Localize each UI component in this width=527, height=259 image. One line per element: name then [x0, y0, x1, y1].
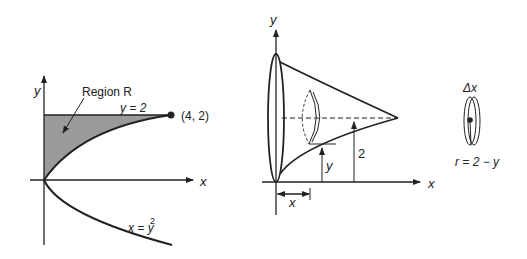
y-axis-label: y — [269, 12, 278, 27]
diagram-canvas: y x Region R y = 2 (4, 2) x = y 2 y x 2 … — [0, 0, 527, 259]
x-dim-label: x — [288, 195, 296, 210]
region-label: Region R — [82, 85, 132, 99]
horn-upper — [280, 62, 398, 118]
line-label: y = 2 — [119, 101, 147, 115]
left-figure: y x Region R y = 2 (4, 2) x = y 2 — [30, 76, 209, 245]
region-r-fill — [44, 115, 171, 180]
curve-exponent: 2 — [150, 216, 155, 226]
middle-figure: y x 2 y x — [262, 12, 435, 215]
height-label: 2 — [358, 146, 365, 161]
point-label: (4, 2) — [181, 109, 209, 123]
disk-center — [467, 117, 473, 123]
thickness-label: Δx — [462, 81, 478, 95]
y-axis-label: y — [33, 83, 42, 98]
x-axis-label: x — [427, 176, 435, 191]
right-figure: Δx r = 2 − y — [455, 81, 500, 169]
radius-line — [470, 120, 471, 145]
x-axis-label: x — [199, 174, 207, 189]
y-dim-label: y — [325, 158, 334, 173]
horn-lower — [280, 118, 398, 174]
point-4-2 — [168, 112, 175, 119]
slice-back — [302, 90, 310, 144]
radius-label: r = 2 − y — [455, 155, 500, 169]
